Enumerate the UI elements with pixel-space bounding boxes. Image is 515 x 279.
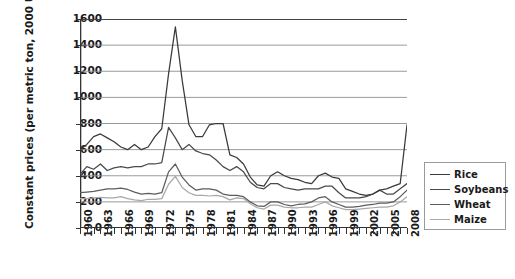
x-tick-label: 2008 [411, 209, 421, 237]
x-tick-mark [100, 228, 101, 234]
x-tick-mark [339, 228, 340, 234]
legend-item-rice[interactable]: Rice [428, 167, 502, 182]
x-tick-mark [182, 228, 183, 234]
x-tick-mark [298, 228, 299, 234]
x-tick-mark [223, 228, 224, 234]
x-tick-mark [175, 228, 176, 234]
x-tick-mark [148, 228, 149, 234]
x-tick-mark [305, 228, 306, 234]
x-tick-mark [353, 228, 354, 234]
x-tick-mark [278, 228, 279, 234]
x-tick-mark [237, 228, 238, 234]
x-tick-mark [318, 228, 319, 234]
legend-item-label: Maize [454, 215, 487, 225]
price-chart: Constant prices (per metric ton, 2000 US… [0, 0, 515, 279]
legend-item-maize[interactable]: Maize [428, 212, 502, 227]
x-tick-mark [393, 228, 394, 234]
series-lines [80, 19, 407, 228]
x-tick-mark [196, 228, 197, 234]
x-tick-mark [257, 228, 258, 234]
legend-line-icon [430, 189, 450, 190]
x-tick-mark [264, 228, 265, 234]
x-tick-mark [325, 228, 326, 234]
x-tick-mark [271, 228, 272, 234]
x-tick-mark [169, 228, 170, 234]
x-tick-mark [155, 228, 156, 234]
x-tick-mark [400, 228, 401, 234]
legend-line-icon [430, 219, 450, 220]
legend-line-icon [430, 174, 450, 175]
legend-item-label: Wheat [454, 200, 490, 210]
y-axis-title: Constant prices (per metric ton, 2000 US… [23, 0, 35, 229]
legend-line-icon [430, 204, 450, 205]
x-tick-mark [250, 228, 251, 234]
x-tick-mark [189, 228, 190, 234]
x-tick-mark [373, 228, 374, 234]
x-tick-mark [359, 228, 360, 234]
x-tick-mark [107, 228, 108, 234]
x-tick-mark [366, 228, 367, 234]
x-tick-mark [284, 228, 285, 234]
legend-item-label: Rice [454, 170, 478, 180]
x-tick-mark [128, 228, 129, 234]
legend-item-wheat[interactable]: Wheat [428, 197, 502, 212]
x-tick-mark [94, 228, 95, 234]
x-tick-mark [312, 228, 313, 234]
x-tick-mark [87, 228, 88, 234]
plot-area [80, 19, 407, 228]
x-tick-mark [80, 228, 81, 234]
legend-item-soybeans[interactable]: Soybeans [428, 182, 502, 197]
x-tick-mark [121, 228, 122, 234]
x-tick-mark [387, 228, 388, 234]
x-tick-mark [114, 228, 115, 234]
x-tick-mark [332, 228, 333, 234]
x-tick-mark [141, 228, 142, 234]
x-tick-mark [291, 228, 292, 234]
legend: RiceSoybeansWheatMaize [424, 162, 506, 230]
x-tick-mark [407, 228, 408, 234]
x-tick-mark [216, 228, 217, 234]
x-tick-mark [209, 228, 210, 234]
x-tick-mark [135, 228, 136, 234]
x-tick-mark [162, 228, 163, 234]
legend-item-label: Soybeans [454, 185, 508, 195]
x-tick-mark [230, 228, 231, 234]
x-tick-mark [244, 228, 245, 234]
x-tick-mark [346, 228, 347, 234]
x-tick-mark [380, 228, 381, 234]
x-tick-mark [203, 228, 204, 234]
